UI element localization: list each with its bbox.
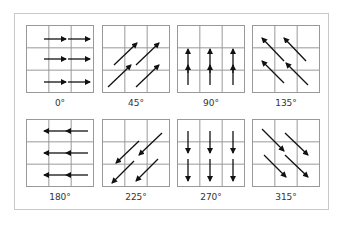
arrow-icon [285,155,308,177]
arrow-icon [262,129,284,151]
angle-label: 135° [252,98,320,108]
grid-45 [102,25,170,93]
angle-label: 225° [102,192,170,202]
arrow-icon [114,43,137,65]
arrow-icon [139,133,162,155]
grid-180 [26,119,94,187]
grid-270 [177,119,245,187]
arrow-icon [284,38,306,61]
arrow-icon [116,141,139,163]
arrow-icon [262,61,284,83]
arrow-icon [108,65,131,87]
grid-315 [252,119,320,187]
angle-label: 315° [252,192,320,202]
angle-label: 0° [26,98,94,108]
arrow-icon [262,38,284,61]
angle-label: 45° [102,98,170,108]
grid-0 [26,25,94,93]
angle-label: 180° [26,192,94,202]
arrow-icon [285,133,308,155]
angle-label: 90° [177,98,245,108]
grid-225 [102,119,170,187]
grid-90 [177,25,245,93]
grid-135 [252,25,320,93]
angle-label: 270° [177,192,245,202]
